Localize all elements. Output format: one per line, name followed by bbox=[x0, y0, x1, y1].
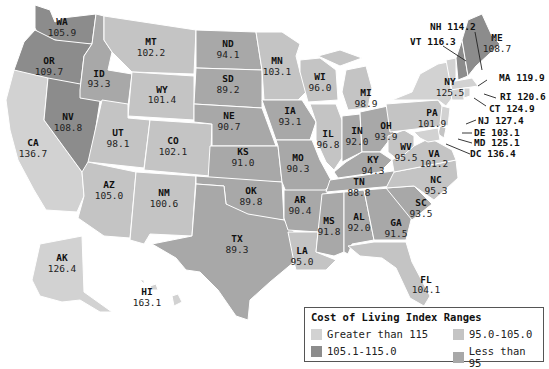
label-code-MS: MS bbox=[323, 215, 335, 226]
label-code-CA: CA bbox=[27, 137, 39, 148]
label-value-IN: 92.0 bbox=[346, 136, 369, 147]
label-code-IL: IL bbox=[322, 128, 334, 139]
label-CT: CT 124.9 bbox=[489, 103, 535, 114]
leader-line-MD bbox=[458, 139, 472, 143]
label-code-OK: OK bbox=[245, 185, 257, 196]
label-value-TN: 88.8 bbox=[348, 187, 371, 198]
label-code-SD: SD bbox=[222, 73, 234, 84]
label-value-UT: 98.1 bbox=[107, 138, 130, 149]
legend-item-95-105: 95.0-105.0 bbox=[453, 328, 532, 340]
label-value-GA: 91.5 bbox=[385, 228, 408, 239]
legend-label: Less than 95 bbox=[469, 345, 543, 369]
legend-label: 105.1-115.0 bbox=[327, 345, 397, 357]
label-code-TX: TX bbox=[231, 233, 243, 244]
label-code-WV: WV bbox=[400, 141, 412, 152]
legend-title: Cost of Living Index Ranges bbox=[311, 311, 482, 323]
label-value-NE: 90.7 bbox=[218, 121, 241, 132]
label-value-WA: 105.9 bbox=[48, 27, 77, 38]
label-value-MN: 103.1 bbox=[263, 66, 292, 77]
leader-line-RI bbox=[484, 94, 496, 98]
label-code-IA: IA bbox=[284, 105, 296, 116]
label-code-KY: KY bbox=[367, 154, 379, 165]
label-value-AK: 126.4 bbox=[48, 263, 77, 274]
legend-swatch bbox=[453, 329, 464, 340]
legend-label: Greater than 115 bbox=[327, 328, 428, 340]
label-code-AR: AR bbox=[294, 194, 306, 205]
label-value-CA: 136.7 bbox=[19, 148, 48, 159]
label-value-AR: 90.4 bbox=[289, 205, 312, 216]
label-code-MO: MO bbox=[292, 152, 304, 163]
legend: Cost of Living Index Ranges Greater than… bbox=[304, 307, 544, 362]
label-code-PA: PA bbox=[426, 107, 438, 118]
legend-item-greater-than-115: Greater than 115 bbox=[311, 328, 428, 340]
label-code-ND: ND bbox=[222, 38, 234, 49]
label-value-HI: 163.1 bbox=[133, 297, 162, 308]
label-code-MT: MT bbox=[145, 36, 157, 47]
label-value-SC: 93.5 bbox=[410, 208, 433, 219]
label-code-NC: NC bbox=[430, 174, 442, 185]
label-value-FL: 104.1 bbox=[412, 284, 441, 295]
label-value-IL: 96.8 bbox=[317, 139, 340, 150]
label-value-OR: 109.7 bbox=[35, 66, 64, 77]
legend-swatch bbox=[311, 329, 322, 340]
label-code-NV: NV bbox=[62, 111, 74, 122]
label-value-SD: 89.2 bbox=[217, 84, 240, 95]
label-value-ME: 108.7 bbox=[483, 43, 512, 54]
label-code-CO: CO bbox=[167, 135, 179, 146]
label-value-WI: 96.0 bbox=[309, 82, 332, 93]
label-code-NM: NM bbox=[158, 187, 170, 198]
label-value-NV: 108.8 bbox=[54, 122, 83, 133]
state-MD[interactable] bbox=[414, 128, 440, 142]
label-value-NC: 95.3 bbox=[425, 185, 448, 196]
label-MD: MD 125.1 bbox=[474, 137, 520, 148]
label-code-HI: HI bbox=[141, 286, 152, 297]
label-code-WI: WI bbox=[314, 71, 325, 82]
leader-line-NJ bbox=[466, 120, 476, 124]
state-NY[interactable] bbox=[392, 62, 452, 106]
state-RI[interactable] bbox=[464, 88, 470, 98]
label-value-WY: 101.4 bbox=[148, 94, 177, 105]
leader-line-CT bbox=[474, 98, 486, 106]
label-value-KS: 91.0 bbox=[232, 157, 255, 168]
legend-swatch bbox=[453, 352, 464, 363]
label-value-IA: 93.1 bbox=[279, 116, 302, 127]
label-value-LA: 95.0 bbox=[291, 256, 314, 267]
label-code-GA: GA bbox=[390, 217, 402, 228]
label-code-AZ: AZ bbox=[103, 179, 115, 190]
label-code-OR: OR bbox=[43, 55, 55, 66]
label-code-LA: LA bbox=[296, 245, 308, 256]
label-code-AK: AK bbox=[56, 252, 68, 263]
label-value-VA: 101.2 bbox=[420, 158, 449, 169]
legend-item-105-115: 105.1-115.0 bbox=[311, 345, 397, 357]
label-value-KY: 94.3 bbox=[362, 165, 385, 176]
label-code-UT: UT bbox=[112, 127, 124, 138]
label-value-AZ: 105.0 bbox=[95, 190, 124, 201]
label-value-AL: 92.0 bbox=[348, 222, 371, 233]
state-FL[interactable] bbox=[348, 242, 430, 306]
leader-line-MA bbox=[478, 80, 487, 86]
label-DC: DC 136.4 bbox=[470, 148, 516, 159]
label-value-CO: 102.1 bbox=[159, 146, 188, 157]
legend-swatch bbox=[311, 346, 322, 357]
label-value-PA: 101.9 bbox=[418, 118, 447, 129]
label-value-ID: 93.3 bbox=[88, 78, 111, 89]
label-code-SC: SC bbox=[415, 197, 427, 208]
label-value-MO: 90.3 bbox=[287, 163, 310, 174]
label-value-MI: 98.9 bbox=[355, 98, 378, 109]
label-code-OH: OH bbox=[380, 120, 392, 131]
label-code-NE: NE bbox=[223, 110, 235, 121]
label-NJ: NJ 127.4 bbox=[478, 115, 524, 126]
label-code-NY: NY bbox=[444, 76, 456, 87]
label-value-ND: 94.1 bbox=[217, 49, 240, 60]
label-VT: VT 116.3 bbox=[410, 36, 456, 47]
legend-label: 95.0-105.0 bbox=[469, 328, 532, 340]
state-AK[interactable] bbox=[32, 236, 112, 312]
label-value-NY: 125.5 bbox=[436, 87, 465, 98]
label-code-KS: KS bbox=[237, 146, 249, 157]
label-value-MT: 102.2 bbox=[137, 47, 166, 58]
label-code-ME: ME bbox=[491, 32, 503, 43]
label-value-TX: 89.3 bbox=[226, 244, 249, 255]
label-MA: MA 119.9 bbox=[499, 72, 545, 83]
label-RI: RI 120.6 bbox=[500, 91, 546, 102]
label-code-AL: AL bbox=[353, 211, 365, 222]
